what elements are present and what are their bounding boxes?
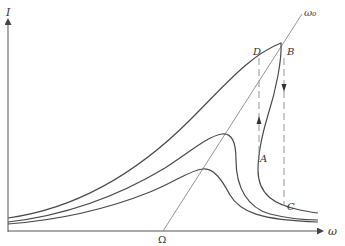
- arrow-down-icon: [282, 84, 287, 92]
- backbone-label: ω₀: [304, 7, 316, 18]
- point-c-label: C: [287, 201, 295, 212]
- y-axis-label: I: [5, 6, 11, 19]
- point-a-label: A: [259, 153, 267, 164]
- x-axis-label: ω: [328, 225, 337, 238]
- point-b-label: B: [286, 46, 294, 57]
- resonance-diagram: I ω ω₀ Ω D B A C: [0, 0, 345, 246]
- inner-curve: [8, 169, 318, 224]
- point-d-label: D: [252, 46, 261, 57]
- middle-curve: [8, 134, 318, 222]
- intercept-label: Ω: [158, 234, 166, 245]
- arrow-up-icon: [257, 116, 262, 124]
- outer-curve: [8, 43, 318, 218]
